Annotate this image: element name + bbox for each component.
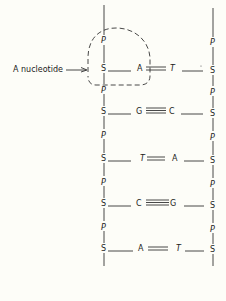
sugar-label: S — [210, 156, 215, 165]
phosphate-label: P — [101, 178, 106, 187]
sugar-label: S — [101, 244, 106, 253]
base-pair-row-4: C G — [108, 199, 204, 208]
base-pair-row-2: G C — [108, 107, 203, 116]
nucleotide-highlight-outline — [88, 28, 150, 85]
phosphate-label: P — [210, 133, 215, 142]
phosphate-label: P — [101, 131, 106, 140]
nucleotide-annotation: A nucleotide — [13, 65, 87, 74]
sugar-label: S — [210, 109, 215, 118]
base-label: G — [170, 199, 176, 208]
sugar-label: S — [210, 201, 215, 210]
base-label: A — [138, 244, 144, 253]
base-label: C — [169, 107, 175, 116]
sugar-label: S — [101, 107, 106, 116]
annotation-label: A nucleotide — [13, 65, 63, 74]
phosphate-label: P — [210, 38, 215, 47]
phosphate-label: P — [210, 88, 215, 97]
phosphate-label: P — [101, 36, 106, 45]
phosphate-label: P — [101, 86, 106, 95]
base-label: T — [170, 64, 176, 73]
base-label: A — [172, 154, 178, 163]
base-label: C — [136, 199, 142, 208]
left-strand-labels: P S P S P S P S P S — [101, 36, 106, 253]
base-pair-row-3: T A — [108, 154, 204, 163]
base-label: T — [140, 154, 146, 163]
sugar-label: S — [101, 154, 106, 163]
phosphate-label: P — [210, 180, 215, 189]
phosphate-label: P — [210, 225, 215, 234]
sugar-label: S — [210, 245, 215, 254]
right-strand-labels: P S P S P S P S P S — [210, 38, 215, 254]
base-label: G — [136, 107, 142, 116]
sugar-label: S — [210, 66, 215, 75]
phosphate-label: P — [101, 223, 106, 232]
base-pair-row-1: A T — [108, 64, 203, 73]
sugar-label: S — [101, 199, 106, 208]
base-label: A — [137, 64, 143, 73]
base-label: T — [176, 244, 182, 253]
sugar-label: S — [101, 64, 106, 73]
dna-ladder-diagram: P S P S P S P S P S P S P S P S P S P S … — [0, 0, 226, 301]
base-pair-row-5: A T — [108, 244, 204, 253]
